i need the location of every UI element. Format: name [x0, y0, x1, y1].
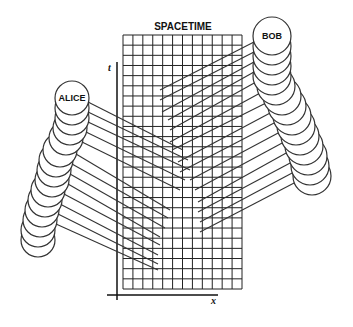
diagram-canvas: t x SPACETIME ALICE BOB — [0, 0, 353, 327]
x-axis-label: x — [210, 295, 216, 306]
worldline — [160, 42, 254, 90]
worldline — [64, 194, 160, 245]
worldline — [195, 142, 284, 190]
alice-observer-stack — [21, 81, 89, 257]
worldline — [170, 92, 262, 142]
bob-label: BOB — [262, 31, 283, 41]
diagram-title: SPACETIME — [154, 21, 212, 32]
worldline — [68, 184, 160, 237]
worldline — [200, 182, 296, 232]
worldline — [72, 164, 168, 218]
bob-observer-stack — [253, 17, 331, 195]
worldline — [162, 62, 254, 112]
worldline — [86, 132, 185, 180]
spacetime-diagram: t x SPACETIME ALICE BOB — [0, 0, 353, 327]
alice-label: ALICE — [59, 93, 86, 103]
t-axis-label: t — [108, 62, 112, 73]
worldline — [190, 132, 280, 180]
